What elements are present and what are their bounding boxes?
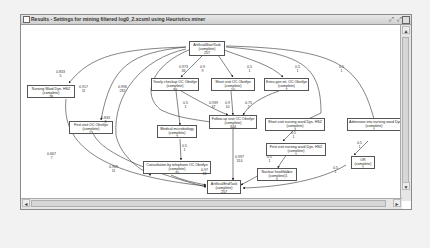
scroll-right-button[interactable]: ► <box>393 199 401 207</box>
edge-label: 0.51 <box>339 65 344 73</box>
edge-label: 0.51 <box>357 141 362 149</box>
edge-label: 0.910 <box>225 101 230 109</box>
title-bar[interactable]: Results - Settings for mining filtered l… <box>21 15 411 25</box>
vertical-scroll-thumb[interactable] <box>402 37 409 187</box>
node-medical-microbiology[interactable]: Medical microbiology (complete) 2 <box>157 125 197 138</box>
edge-label: 0.996282 <box>118 85 127 93</box>
node-count: 257 <box>191 51 223 55</box>
node-nuclear-health[interactable]: Nuclear health care (complete) 5 <box>257 168 297 181</box>
node-count: 344 <box>211 125 255 129</box>
node-count: 1 <box>353 166 373 169</box>
edge-label: 0.51 <box>333 166 338 174</box>
edge-label: 0.93937 <box>209 101 218 109</box>
horizontal-scrollbar[interactable]: ◄ ► <box>21 198 402 209</box>
node-count: 5 <box>259 178 295 181</box>
edge-label: 0.997314 <box>235 155 244 163</box>
edge-label: 0.8335 <box>56 70 65 78</box>
window-title: Results - Settings for mining filtered l… <box>31 15 205 24</box>
graph-canvas[interactable]: ArtificialStartTask (complete) 257 Nursi… <box>21 25 402 200</box>
edge-label: 0.51 <box>183 101 188 109</box>
edge-label: 0.97336 <box>179 65 188 73</box>
results-window: Results - Settings for mining filtered l… <box>20 14 412 210</box>
node-extra-gen[interactable]: Extra gen int. OC Obstfyn (complete) 2 <box>264 78 309 91</box>
node-count: 257 <box>209 190 239 194</box>
edge-label: 0.752 <box>245 101 252 109</box>
edge-label: 0.51 <box>295 65 300 73</box>
edge-label: 0.90911 <box>109 165 118 173</box>
node-count: 13 <box>71 131 111 134</box>
node-count: 40 <box>145 171 209 174</box>
edge-label: 0.91711 <box>79 85 88 93</box>
node-first-visit-nursing[interactable]: First visit nursing ward Dyn. HSZ (compl… <box>266 143 326 156</box>
node-count: 1 <box>349 128 399 131</box>
scroll-down-button[interactable]: ▼ <box>402 182 410 190</box>
edge-label: 0.51 <box>291 131 296 139</box>
node-short-visit-nursing[interactable]: Short visit nursing ward Dyn. HSZ (compl… <box>265 118 325 131</box>
edge-label: 0.51 <box>267 155 272 163</box>
node-count: 1 <box>268 153 324 156</box>
close-icon[interactable] <box>402 16 410 24</box>
node-count: 2 <box>266 88 307 91</box>
edge-label: 0.6677 <box>47 152 56 160</box>
node-count: 2 <box>159 135 195 138</box>
node-count: 10 <box>213 88 253 91</box>
edge-label: 0.9718 <box>201 168 208 176</box>
node-or[interactable]: OR (complete) 1 <box>351 156 375 169</box>
edge-label: 0.51 <box>284 170 289 178</box>
vertical-scrollbar[interactable]: ▲ ▼ <box>400 25 411 201</box>
node-count: 39 <box>153 88 197 91</box>
scroll-left-button[interactable]: ◄ <box>22 199 30 207</box>
window-icon <box>23 16 30 23</box>
node-nursing-ward[interactable]: Nursing Ward Dyn. HSZ (complete) 78 <box>27 85 75 98</box>
edge-label: 0.8338 <box>101 116 110 124</box>
node-artificial-end[interactable]: ArtificialEndTask (complete) 257 <box>207 180 241 194</box>
edge-label: 0.51 <box>247 65 252 73</box>
node-yearly-checkup[interactable]: Yearly checkup OC Obstfyn (complete) 39 <box>151 78 199 91</box>
restore-icon[interactable]: ⤢ <box>388 16 394 22</box>
node-admission[interactable]: Admission into nursing ward Dyn. HSZ (co… <box>347 118 401 131</box>
node-artificial-start[interactable]: ArtificialStartTask (complete) 257 <box>189 41 225 56</box>
node-followup-visit[interactable]: Follow-up visit OC Obstfyn (complete) 34… <box>209 115 257 129</box>
node-count: 78 <box>29 95 73 98</box>
scroll-up-button[interactable]: ▲ <box>402 26 410 34</box>
edge-label: 0.51 <box>182 144 187 152</box>
edge-label: 0.99 <box>200 65 205 73</box>
node-short-visit-oc[interactable]: Short visit OC Obstfyn (complete) 10 <box>211 78 255 91</box>
horizontal-scroll-thumb[interactable] <box>31 200 386 207</box>
